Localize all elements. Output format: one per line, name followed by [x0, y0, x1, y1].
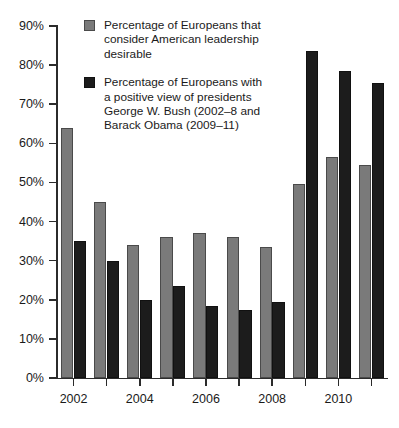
legend-label-line: Percentage of Europeans that — [104, 18, 261, 32]
bar-2002-series2 — [74, 241, 86, 378]
x-axis-label-2006: 2006 — [192, 392, 220, 406]
y-axis-label: 20% — [0, 293, 44, 307]
x-axis-tick — [172, 378, 174, 386]
bar-2008-series1 — [260, 247, 272, 378]
bar-2007-series2 — [239, 310, 251, 378]
legend-entry-1: Percentage of Europeans thatconsider Ame… — [84, 18, 314, 61]
y-axis-label: 0% — [0, 371, 44, 385]
x-axis-tick — [305, 378, 307, 386]
legend-swatch-black — [84, 77, 95, 88]
x-axis-tick — [271, 378, 273, 386]
y-axis-label: 50% — [0, 175, 44, 189]
y-axis-label: 40% — [0, 215, 44, 229]
y-axis-label: 10% — [0, 332, 44, 346]
x-axis-label-2004: 2004 — [126, 392, 154, 406]
bar-2003-series2 — [107, 261, 119, 378]
x-axis-tick — [106, 378, 108, 386]
x-axis-tick — [139, 378, 141, 386]
x-axis-tick — [205, 378, 207, 386]
legend-entry-2: Percentage of Europeans witha positive v… — [84, 75, 314, 133]
bar-chart: 0%10%20%30%40%50%60%70%80%90% 2002200420… — [0, 0, 399, 428]
legend-label-line: George W. Bush (2002–8 and — [104, 104, 262, 118]
y-axis-label: 60% — [0, 136, 44, 150]
y-axis-label: 70% — [0, 97, 44, 111]
legend-label-line: Percentage of Europeans with — [104, 75, 262, 89]
legend-label-line: desirable — [104, 47, 261, 61]
y-axis-tick — [49, 260, 57, 262]
x-axis-label-2010: 2010 — [324, 392, 352, 406]
bar-2006-series2 — [206, 306, 218, 378]
bar-2005-series2 — [173, 286, 185, 378]
bar-2010-series1 — [326, 157, 338, 378]
chart-legend: Percentage of Europeans thatconsider Ame… — [84, 18, 314, 147]
bar-2004-series2 — [140, 300, 152, 378]
x-axis-label-2008: 2008 — [258, 392, 286, 406]
bar-2005-series1 — [160, 237, 172, 378]
bar-2011-series1 — [359, 165, 371, 378]
y-axis-tick — [49, 103, 57, 105]
legend-label: Percentage of Europeans witha positive v… — [104, 75, 262, 133]
y-axis-label: 80% — [0, 58, 44, 72]
y-axis-tick — [49, 338, 57, 340]
bar-2006-series1 — [193, 233, 205, 378]
legend-label: Percentage of Europeans thatconsider Ame… — [104, 18, 261, 61]
y-axis-label: 30% — [0, 254, 44, 268]
bar-2011-series2 — [372, 83, 384, 378]
y-axis-tick — [49, 221, 57, 223]
y-axis-tick — [49, 377, 57, 379]
y-axis-tick — [49, 25, 57, 27]
bar-2007-series1 — [227, 237, 239, 378]
x-axis-label-2002: 2002 — [60, 392, 88, 406]
x-axis-tick — [371, 378, 373, 386]
bar-2010-series2 — [339, 71, 351, 378]
bar-2004-series1 — [127, 245, 139, 378]
x-axis-tick — [73, 378, 75, 386]
x-axis-tick — [338, 378, 340, 386]
y-axis-label: 90% — [0, 19, 44, 33]
bar-2008-series2 — [272, 302, 284, 378]
bar-2009-series1 — [293, 184, 305, 378]
y-axis-tick — [49, 143, 57, 145]
legend-label-line: consider American leadership — [104, 32, 261, 46]
legend-label-line: a positive view of presidents — [104, 90, 262, 104]
y-axis-tick — [49, 182, 57, 184]
legend-swatch-gray — [84, 20, 95, 31]
bar-2003-series1 — [94, 202, 106, 378]
y-axis-tick — [49, 299, 57, 301]
bar-2002-series1 — [61, 128, 73, 378]
y-axis-tick — [49, 64, 57, 66]
x-axis-tick — [238, 378, 240, 386]
legend-label-line: Barack Obama (2009–11) — [104, 118, 262, 132]
